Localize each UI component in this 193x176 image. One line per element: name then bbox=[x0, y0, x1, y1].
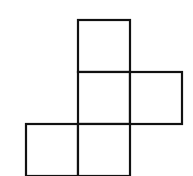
squares-group bbox=[26, 20, 182, 176]
square-right bbox=[130, 72, 182, 124]
square-top bbox=[78, 20, 130, 72]
square-net-diagram bbox=[0, 0, 193, 176]
square-bottom-left bbox=[26, 124, 78, 176]
square-bottom-center bbox=[78, 124, 130, 176]
square-middle bbox=[78, 72, 130, 124]
